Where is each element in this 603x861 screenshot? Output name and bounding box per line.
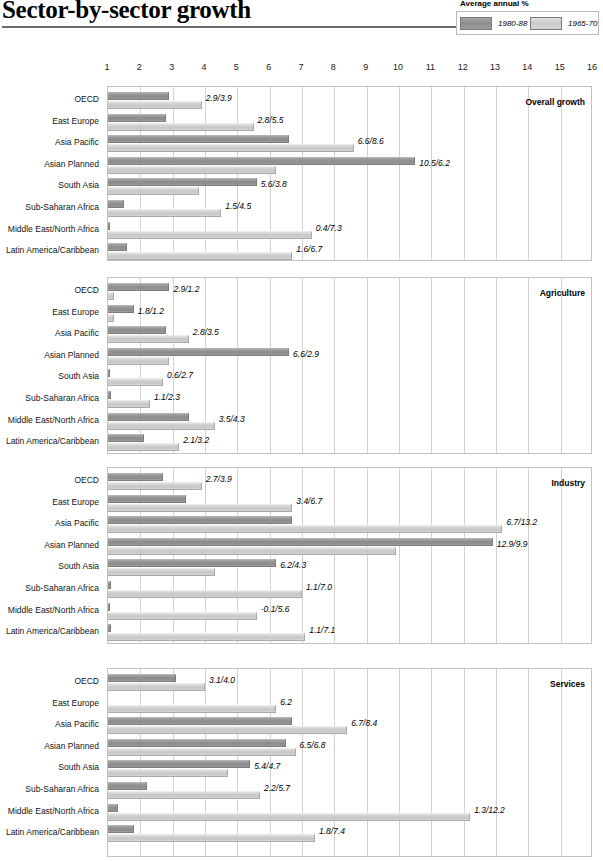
panel-services: OECDEast EuropeAsia PacificAsian Planned… (0, 668, 603, 857)
row-label-sub-saharan-africa: Sub-Saharan Africa (25, 784, 99, 794)
bar-value-label: 2.9/1.2 (173, 284, 199, 294)
gridline-7 (302, 278, 303, 453)
row-label-asian-planned: Asian Planned (44, 350, 99, 360)
gridline-7 (302, 468, 303, 643)
gridline-12 (464, 278, 465, 453)
bar-value-label: 6.7/8.4 (351, 718, 377, 728)
axis-tick-11: 11 (426, 62, 435, 72)
gridline-9 (367, 87, 368, 260)
gridline-14 (528, 468, 529, 643)
axis-tick-7: 7 (298, 62, 303, 72)
bar-value-label: 5.4/4.7 (254, 761, 280, 771)
bar-1965-70 (108, 422, 215, 430)
row-label-oecd: OECD (74, 475, 99, 485)
bar-value-label: 2.8/5.5 (258, 115, 284, 125)
axis-tick-4: 4 (201, 62, 206, 72)
bar-value-label: 1.3/12.2 (474, 805, 505, 815)
bar-1965-70 (108, 726, 347, 734)
row-label-south-asia: South Asia (58, 180, 99, 190)
gridline-14 (528, 278, 529, 453)
bar-1980-88 (108, 717, 292, 725)
bar-1980-88 (108, 135, 289, 143)
bar-1980-88 (108, 157, 415, 165)
bar-value-label: 1.1/7.0 (306, 582, 332, 592)
axis-tick-12: 12 (458, 62, 468, 72)
bar-1980-88 (108, 200, 124, 208)
gridline-13 (496, 669, 497, 856)
row-label-asia-pacific: Asia Pacific (55, 518, 99, 528)
bar-value-label: 6.2 (280, 697, 292, 707)
panel-overall-growth: OECDEast EuropeAsia PacificAsian Planned… (0, 86, 603, 261)
row-label-middle-east-north-africa: Middle East/North Africa (8, 605, 99, 615)
gridline-11 (431, 669, 432, 856)
gridline-13 (496, 278, 497, 453)
row-label-middle-east-north-africa: Middle East/North Africa (8, 224, 99, 234)
gridline-9 (367, 669, 368, 856)
gridline-6 (270, 278, 271, 453)
row-label-latin-america-caribbean: Latin America/Caribbean (6, 827, 99, 837)
row-label-asia-pacific: Asia Pacific (55, 719, 99, 729)
legend-box: 1980-88 1965-70 (456, 11, 599, 35)
bar-value-label: 1.8/7.4 (319, 826, 345, 836)
bar-value-label: 1.1/7.1 (309, 625, 335, 635)
row-label-latin-america-caribbean: Latin America/Caribbean (6, 245, 99, 255)
gridline-7 (302, 669, 303, 856)
bar-1980-88 (108, 434, 144, 442)
bar-1980-88 (108, 559, 276, 567)
bar-1965-70 (108, 683, 205, 691)
row-label-middle-east-north-africa: Middle East/North Africa (8, 806, 99, 816)
gridline-14 (528, 87, 529, 260)
bar-1980-88 (108, 178, 257, 186)
gridline-5 (237, 278, 238, 453)
bar-1980-88 (108, 305, 134, 313)
gridline-15 (561, 669, 562, 856)
bar-1980-88 (108, 782, 147, 790)
axis-tick-8: 8 (331, 62, 336, 72)
bar-1980-88 (108, 283, 169, 291)
legend-entry-1965-70: 1965-70 (530, 17, 597, 30)
bar-1980-88 (108, 495, 186, 503)
bar-1965-70 (108, 547, 396, 555)
bar-value-label: 1.8/1.2 (138, 306, 164, 316)
bar-1965-70 (108, 834, 315, 842)
bar-1980-88 (108, 825, 134, 833)
bar-value-label: 3.1/4.0 (209, 675, 235, 685)
row-label-latin-america-caribbean: Latin America/Caribbean (6, 436, 99, 446)
row-label-asian-planned: Asian Planned (44, 159, 99, 169)
bar-1980-88 (108, 92, 169, 100)
plot-area: Overall growth2.9/3.92.8/5.56.6/8.610.5/… (107, 86, 592, 261)
axis-tick-16: 16 (587, 62, 597, 72)
bar-1980-88 (108, 348, 289, 356)
bar-1980-88 (108, 760, 250, 768)
bar-1965-70 (108, 252, 292, 260)
plot-area: Services3.1/4.06.26.7/8.46.5/6.85.4/4.72… (107, 668, 592, 857)
axis-tick-2: 2 (137, 62, 142, 72)
row-label-east-europe: East Europe (52, 497, 99, 507)
bar-1980-88 (108, 516, 292, 524)
row-label-oecd: OECD (74, 94, 99, 104)
row-label-latin-america-caribbean: Latin America/Caribbean (6, 626, 99, 636)
gridline-9 (367, 278, 368, 453)
bar-1965-70 (108, 568, 215, 576)
bar-value-label: 2.8/3.5 (193, 327, 219, 337)
row-label-asia-pacific: Asia Pacific (55, 137, 99, 147)
bar-1965-70 (108, 705, 276, 713)
row-label-south-asia: South Asia (58, 762, 99, 772)
bar-1965-70 (108, 590, 302, 598)
bar-1980-88 (108, 603, 110, 611)
row-label-oecd: OECD (74, 285, 99, 295)
bar-1965-70 (108, 101, 202, 109)
axis-tick-9: 9 (363, 62, 368, 72)
gridline-13 (496, 87, 497, 260)
bar-1965-70 (108, 633, 305, 641)
bar-1965-70 (108, 144, 354, 152)
bar-1965-70 (108, 378, 163, 386)
row-label-south-asia: South Asia (58, 371, 99, 381)
row-label-asian-planned: Asian Planned (44, 741, 99, 751)
bar-1965-70 (108, 357, 169, 365)
axis-tick-14: 14 (522, 62, 532, 72)
legend-label-1980-88: 1980-88 (498, 19, 527, 28)
bar-1965-70 (108, 791, 260, 799)
gridline-12 (464, 468, 465, 643)
gridline-10 (399, 87, 400, 260)
